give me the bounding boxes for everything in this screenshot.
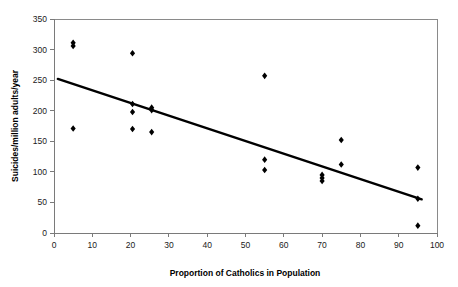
- x-tick-label: 100: [430, 240, 444, 250]
- x-tick-label: 10: [88, 240, 98, 250]
- y-tick-label: 300: [33, 45, 47, 55]
- data-point-marker: [262, 73, 267, 80]
- regression-trend-line: [58, 79, 422, 199]
- scatter-chart: 050100150200250300350 010203040506070809…: [0, 0, 458, 287]
- data-point-marker: [71, 125, 76, 132]
- y-tick-label: 200: [33, 106, 47, 116]
- x-tick-label: 20: [126, 240, 136, 250]
- y-tick-label: 50: [38, 197, 48, 207]
- y-axis-ticks: 050100150200250300350: [33, 14, 54, 238]
- x-tick-label: 40: [202, 240, 212, 250]
- data-point-marker: [339, 161, 344, 168]
- data-point-marker: [130, 126, 135, 133]
- data-point-marker: [415, 164, 420, 171]
- data-point-marker: [339, 137, 344, 144]
- x-tick-label: 50: [241, 240, 251, 250]
- y-axis-title: Suicides/million adults/year: [10, 69, 20, 182]
- plot-frame: [54, 19, 437, 233]
- data-point-marker: [130, 109, 135, 116]
- y-tick-label: 0: [42, 228, 47, 238]
- data-point-marker: [262, 156, 267, 163]
- data-point-marker: [415, 222, 420, 229]
- y-tick-label: 350: [33, 14, 47, 24]
- x-tick-label: 60: [279, 240, 289, 250]
- x-tick-label: 30: [164, 240, 174, 250]
- data-point-marker: [130, 101, 135, 108]
- data-points-group: [71, 40, 421, 229]
- x-tick-label: 80: [356, 240, 366, 250]
- chart-canvas: 050100150200250300350 010203040506070809…: [0, 0, 458, 287]
- x-axis-title: Proportion of Catholics in Population: [170, 268, 321, 278]
- data-point-marker: [149, 129, 154, 136]
- trend-line-group: [58, 79, 422, 199]
- x-tick-label: 90: [394, 240, 404, 250]
- data-point-marker: [130, 50, 135, 57]
- data-point-marker: [262, 167, 267, 174]
- y-tick-label: 100: [33, 167, 47, 177]
- x-tick-label: 0: [52, 240, 57, 250]
- x-axis-ticks: 0102030405060708090100: [52, 233, 445, 250]
- x-tick-label: 70: [317, 240, 327, 250]
- y-tick-label: 150: [33, 136, 47, 146]
- y-tick-label: 250: [33, 75, 47, 85]
